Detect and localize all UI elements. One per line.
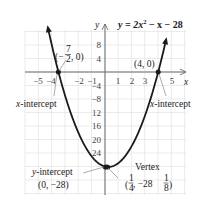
leader-vertex bbox=[108, 168, 118, 178]
y-intercept-coords: (0, −28) bbox=[38, 180, 69, 191]
x-tick-label: 1 bbox=[116, 76, 121, 86]
left-intercept-close: , 0) bbox=[71, 52, 84, 63]
leader-yint bbox=[83, 167, 104, 173]
y-tick-label: 12 bbox=[92, 108, 101, 118]
y-tick-labels: 84−4−812162024 bbox=[91, 40, 101, 158]
vertex-open-paren: ( bbox=[125, 180, 128, 191]
x-tick-label: 3 bbox=[143, 76, 148, 86]
vertex-close-paren: ) bbox=[169, 180, 172, 191]
x-tick-label: 5 bbox=[170, 76, 175, 86]
x-tick-label: 2 bbox=[130, 76, 135, 86]
x-axis-label: x bbox=[183, 77, 189, 87]
y-tick-label: 8 bbox=[97, 40, 102, 50]
right-intercept-coords: (4, 0) bbox=[134, 59, 155, 70]
x-intercept-left-point bbox=[56, 70, 61, 75]
y-tick-label: 24 bbox=[92, 148, 102, 158]
x-tick-label: −4 bbox=[46, 76, 56, 86]
y-tick-label: 4 bbox=[97, 54, 102, 64]
leader-right-xint bbox=[159, 74, 166, 96]
y-tick-label: −4 bbox=[91, 81, 101, 91]
y-tick-label: −8 bbox=[91, 94, 101, 104]
parabola-chart: y x −5−4−2−11235 84−4−812162024 y = 2x2 … bbox=[0, 0, 212, 204]
x-intercept-right-label: x-intercept bbox=[149, 99, 191, 109]
vertex-y-whole: , −28 bbox=[133, 179, 153, 189]
y-tick-label: 20 bbox=[92, 135, 102, 145]
y-tick-label: 16 bbox=[92, 121, 102, 131]
y-axis-label: y bbox=[94, 20, 100, 30]
x-intercept-right-point bbox=[156, 70, 161, 75]
x-tick-label: −5 bbox=[33, 76, 43, 86]
y-intercept-title: y-intercept bbox=[31, 167, 73, 177]
chart-title: y = 2x2 − x − 28 bbox=[117, 18, 183, 30]
x-tick-label: −2 bbox=[74, 76, 84, 86]
left-intercept-coords: (− bbox=[55, 52, 64, 63]
x-intercept-left-label: x-intercept bbox=[15, 99, 57, 109]
curve-arrow-left-icon bbox=[46, 25, 52, 32]
vertex-title: Vertex bbox=[135, 162, 160, 172]
x-tick-labels: −5−4−2−11235 bbox=[33, 76, 175, 86]
curve-arrow-right-icon bbox=[162, 37, 168, 44]
